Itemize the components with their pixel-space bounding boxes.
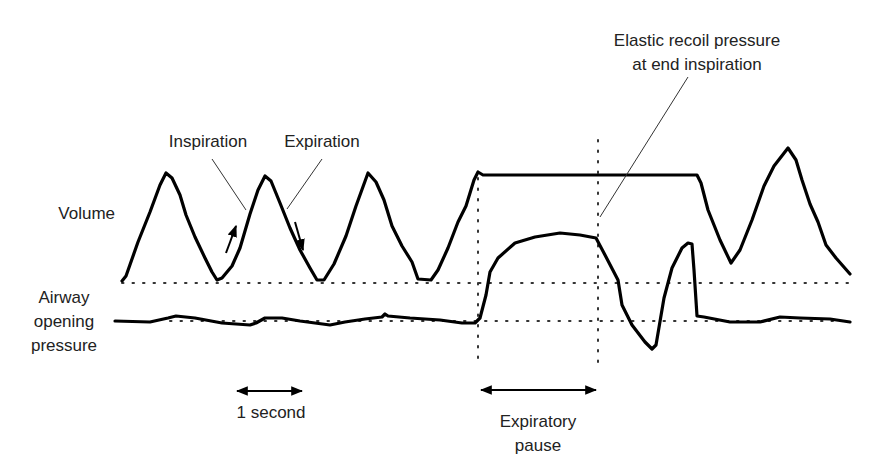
airway-label-line2: opening xyxy=(34,312,95,331)
elastic-leader xyxy=(600,77,688,217)
airway-label-line1: Airway xyxy=(38,288,90,307)
one-second-label: 1 second xyxy=(237,403,306,422)
inspiration-leader xyxy=(212,159,246,210)
elastic-label-line1: Elastic recoil pressure xyxy=(614,31,780,50)
volume-trace xyxy=(122,148,850,281)
airway-label-line3: pressure xyxy=(31,336,97,355)
expiration-label: Expiration xyxy=(284,132,360,151)
elastic-label-line2: at end inspiration xyxy=(632,55,761,74)
respiratory-waveform-diagram: Volume Airway opening pressure Inspirati… xyxy=(0,0,880,476)
volume-label: Volume xyxy=(58,204,115,223)
expiratory-label-line1: Expiratory xyxy=(500,412,577,431)
inspiration-arrow-icon xyxy=(226,226,236,253)
expiration-leader xyxy=(287,159,322,209)
expiratory-label-line2: pause xyxy=(515,436,561,455)
inspiration-label: Inspiration xyxy=(169,132,247,151)
